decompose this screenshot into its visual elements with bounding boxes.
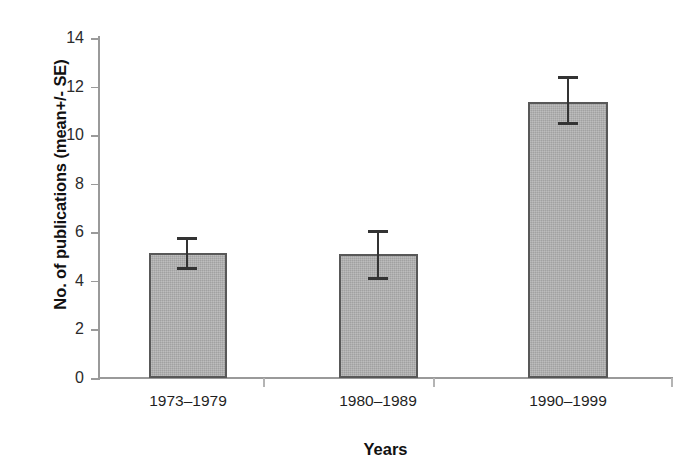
y-tick-label-2: 2 [14, 320, 84, 338]
y-tick-6 [91, 232, 99, 234]
y-tick-0 [91, 378, 99, 380]
error-bar-cap-lower-1973-1979 [177, 267, 197, 270]
y-tick-10 [91, 135, 99, 137]
y-tick-label-12: 12 [14, 78, 84, 96]
x-tick-separator-1 [263, 378, 265, 387]
error-bar-cap-lower-1980-1989 [368, 277, 388, 280]
y-tick-2 [91, 329, 99, 331]
y-tick-label-0: 0 [14, 369, 84, 387]
y-tick-8 [91, 184, 99, 186]
error-bar-cap-lower-1990-1999 [558, 122, 578, 125]
y-tick-label-14: 14 [14, 29, 84, 47]
error-bar-line-1990-1999 [567, 77, 569, 123]
x-tick-label-1973-1979: 1973–1979 [108, 392, 268, 410]
error-bar-cap-upper-1973-1979 [177, 237, 197, 240]
y-tick-label-4: 4 [14, 272, 84, 290]
error-bar-cap-upper-1980-1989 [368, 230, 388, 233]
error-bar-line-1973-1979 [186, 238, 188, 267]
x-tick-end [671, 378, 673, 387]
y-tick-14 [91, 38, 99, 40]
y-tick-label-6: 6 [14, 223, 84, 241]
x-tick-label-1990-1999: 1990–1999 [488, 392, 648, 410]
y-tick-label-8: 8 [14, 175, 84, 193]
bar-chart-figure: No. of publications (mean+/- SE) Years 1… [0, 0, 685, 473]
error-bar-line-1980-1989 [377, 231, 379, 277]
error-bar-cap-upper-1990-1999 [558, 76, 578, 79]
y-tick-label-10: 10 [14, 126, 84, 144]
bar-1990-1999 [528, 102, 608, 378]
y-tick-12 [91, 87, 99, 89]
x-tick-label-1980-1989: 1980–1989 [298, 392, 458, 410]
x-axis-title: Years [99, 440, 672, 459]
y-tick-4 [91, 281, 99, 283]
bar-1973-1979 [149, 253, 227, 378]
x-tick-separator-2 [433, 378, 435, 387]
